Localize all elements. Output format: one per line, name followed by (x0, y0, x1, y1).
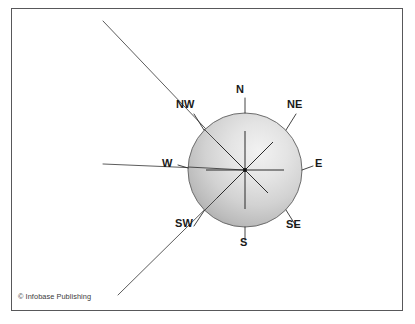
compass-label-e: E (315, 158, 322, 169)
compass-label-s: S (240, 237, 247, 248)
compass-label-w: W (162, 158, 172, 169)
compass-label-n: N (236, 84, 244, 95)
tick-e (302, 166, 313, 170)
compass-figure: N NE E SE S SW W NW © Infobase Publishin… (0, 0, 415, 324)
publisher-credit: © Infobase Publishing (18, 292, 91, 301)
tick-ne (286, 114, 296, 130)
tick-nw (194, 114, 204, 130)
compass-diagram-svg (0, 0, 415, 324)
compass-label-ne: NE (287, 99, 302, 110)
compass-label-se: SE (286, 219, 301, 230)
compass-center-dot (243, 168, 247, 172)
compass-label-nw: NW (176, 99, 195, 110)
compass-label-sw: SW (175, 218, 193, 229)
